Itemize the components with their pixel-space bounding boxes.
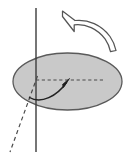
rotating-disk-diagram — [0, 0, 130, 163]
figure-container — [0, 0, 130, 163]
